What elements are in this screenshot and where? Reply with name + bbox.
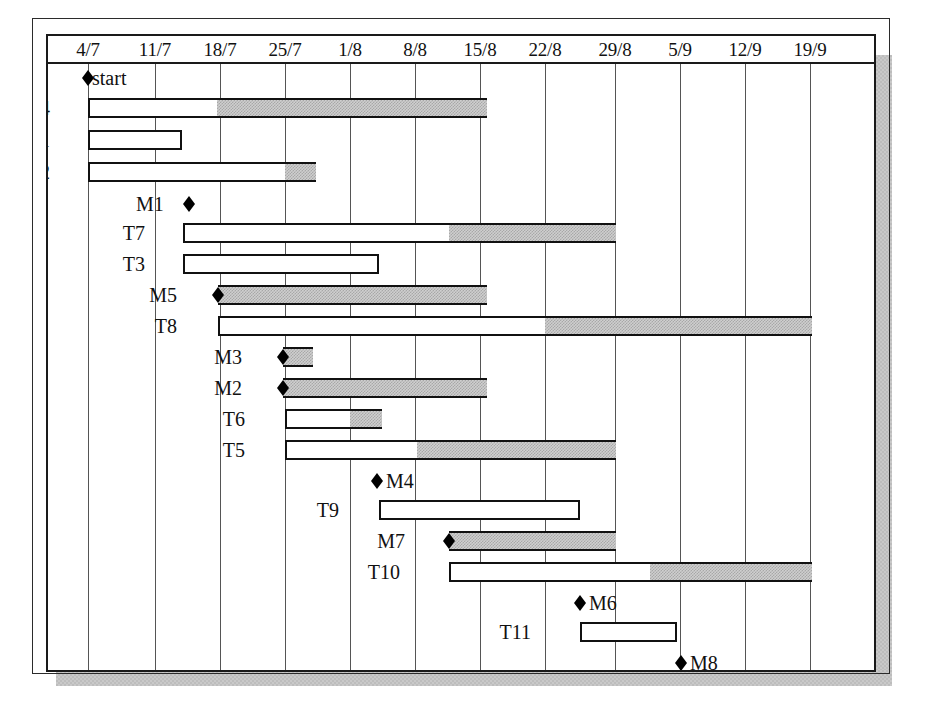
milestone-diamond-icon (183, 196, 195, 204)
gantt-row-m7[interactable]: M7 (48, 527, 876, 555)
task-label-t6: T6 (205, 405, 245, 433)
gantt-row-m2[interactable]: M2 (48, 374, 876, 402)
milestone-label: M4 (386, 467, 414, 495)
task-bar-progress (218, 287, 487, 303)
timeline-header: 4/711/718/725/71/88/815/822/829/85/912/9… (46, 34, 876, 64)
gantt-row-m1[interactable]: M1 (48, 190, 876, 218)
task-label-t10: T10 (360, 558, 400, 586)
task-bar-t11[interactable] (580, 622, 677, 642)
date-tick-11-7: 11/7 (122, 39, 188, 61)
gantt-row-start[interactable]: start (48, 64, 876, 92)
gantt-row-t3[interactable]: T3 (48, 250, 876, 278)
task-bar-progress (283, 380, 487, 396)
milestone-diamond-icon (277, 380, 289, 388)
date-tick-8-8: 8/8 (382, 39, 448, 61)
date-tick-4-7: 4/7 (55, 39, 121, 61)
milestone-diamond-icon (277, 349, 289, 357)
task-bar-progress (217, 100, 487, 116)
milestone-label: M6 (589, 589, 617, 617)
milestone-diamond-icon (675, 655, 687, 663)
task-bar-t8[interactable] (218, 316, 812, 336)
gantt-row-t7[interactable]: T7 (48, 219, 876, 247)
task-bar-progress (449, 225, 616, 241)
date-tick-29-8: 29/8 (582, 39, 648, 61)
task-label-t1: T1 (46, 126, 50, 154)
date-tick-1-8: 1/8 (317, 39, 383, 61)
task-bar-t9[interactable] (379, 500, 580, 520)
date-tick-19-9: 19/9 (777, 39, 843, 61)
task-bar-progress (545, 318, 812, 334)
task-label-m7: M7 (365, 527, 405, 555)
task-bar-progress (285, 164, 316, 180)
task-bar-m2[interactable] (283, 378, 487, 398)
task-label-t7: T7 (105, 219, 145, 247)
task-bar-t5[interactable] (285, 440, 616, 460)
gantt-row-t4[interactable]: T4 (48, 94, 876, 122)
task-label-t4: T4 (46, 94, 50, 122)
task-bar-progress (350, 411, 382, 427)
task-label-t5: T5 (205, 436, 245, 464)
date-tick-18-7: 18/7 (187, 39, 253, 61)
date-tick-5-9: 5/9 (647, 39, 713, 61)
task-label-m3: M3 (202, 343, 242, 371)
task-bar-t4[interactable] (88, 98, 487, 118)
task-label-t8: T8 (137, 312, 177, 340)
date-tick-22-8: 22/8 (512, 39, 578, 61)
milestone-diamond-icon (574, 595, 586, 603)
task-label-m2: M2 (202, 374, 242, 402)
task-bar-t6[interactable] (285, 409, 382, 429)
milestone-diamond-icon (212, 287, 224, 295)
gantt-row-t11[interactable]: T11 (48, 618, 876, 646)
milestone-diamond-icon (443, 533, 455, 541)
gantt-row-t9[interactable]: T9 (48, 496, 876, 524)
gantt-row-m4[interactable]: M4 (48, 467, 876, 495)
gantt-chart: 4/711/718/725/71/88/815/822/829/85/912/9… (0, 0, 938, 728)
milestone-diamond-icon (371, 473, 383, 481)
gantt-row-t5[interactable]: T5 (48, 436, 876, 464)
gantt-row-t2[interactable]: T2 (48, 158, 876, 186)
task-bar-t2[interactable] (88, 162, 316, 182)
milestone-label: M1 (136, 190, 164, 218)
task-label-t9: T9 (299, 496, 339, 524)
task-bar-t10[interactable] (449, 562, 812, 582)
gantt-row-t8[interactable]: T8 (48, 312, 876, 340)
gantt-row-m8[interactable]: M8 (48, 649, 876, 672)
date-tick-25-7: 25/7 (252, 39, 318, 61)
task-bar-m7[interactable] (449, 531, 616, 551)
task-bar-t1[interactable] (88, 130, 182, 150)
milestone-label: start (92, 64, 126, 92)
task-bar-t7[interactable] (183, 223, 616, 243)
gantt-row-t10[interactable]: T10 (48, 558, 876, 586)
task-bar-progress (650, 564, 812, 580)
task-bar-m5[interactable] (218, 285, 487, 305)
task-label-m5: M5 (137, 281, 177, 309)
date-tick-12-9: 12/9 (712, 39, 778, 61)
task-bar-progress (449, 533, 616, 549)
gantt-row-m3[interactable]: M3 (48, 343, 876, 371)
task-label-t2: T2 (46, 158, 50, 186)
gantt-row-m5[interactable]: M5 (48, 281, 876, 309)
gantt-plot-area: startT4T1T2M1T7T3M5T8M3M2T6T5M4T9M7T10M6… (46, 64, 876, 672)
date-tick-15-8: 15/8 (447, 39, 513, 61)
gantt-row-m6[interactable]: M6 (48, 589, 876, 617)
task-label-t11: T11 (491, 618, 531, 646)
milestone-label: M8 (690, 649, 718, 672)
gantt-row-t1[interactable]: T1 (48, 126, 876, 154)
task-label-t3: T3 (105, 250, 145, 278)
task-bar-progress (417, 442, 616, 458)
gantt-row-t6[interactable]: T6 (48, 405, 876, 433)
task-bar-t3[interactable] (183, 254, 379, 274)
